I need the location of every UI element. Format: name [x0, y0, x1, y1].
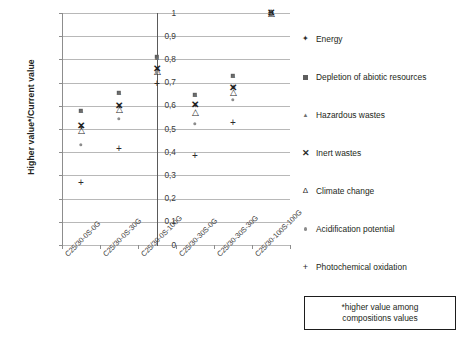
y-tick-mark	[59, 106, 63, 107]
legend-plus-marker-icon: +	[300, 263, 311, 272]
y-tick-label: 0,2	[116, 193, 176, 203]
y-tick-mark	[59, 152, 63, 153]
triangle-marker-icon: △	[192, 108, 199, 117]
legend-item-acidification-potential[interactable]: Acidification potential	[300, 222, 468, 236]
legend-item-label: Climate change	[316, 186, 374, 196]
gridline	[62, 13, 290, 14]
legend-item-label: Acidification potential	[316, 224, 395, 234]
circle-marker-icon	[193, 122, 196, 125]
gridline	[62, 129, 290, 130]
plus-marker-icon: +	[230, 118, 236, 128]
footnote-box: *higher value among compositions values	[304, 296, 456, 330]
y-tick-mark	[59, 175, 63, 176]
y-tick-label: 0,9	[116, 31, 176, 41]
plus-marker-icon: +	[268, 8, 274, 18]
legend-item-hazardous-wastes[interactable]: ▲Hazardous wastes	[300, 108, 468, 122]
legend-item-photochemical-oxidation[interactable]: +Photochemical oxidation	[300, 260, 468, 274]
legend-square-marker-icon	[300, 75, 311, 80]
x-tick-mark	[214, 245, 215, 249]
y-tick-mark	[59, 222, 63, 223]
legend-item-label: Hazardous wastes	[316, 110, 385, 120]
gridline	[62, 36, 290, 37]
legend-item-label: Inert wastes	[316, 148, 361, 158]
chart-canvas: Higher value*/Current value ✦✦✦✦✦✦▲▲▲▲▲▲…	[0, 0, 470, 342]
circle-marker-icon	[117, 117, 120, 120]
y-tick-label: 0,7	[116, 77, 176, 87]
legend-item-label: Energy	[316, 34, 343, 44]
triangle-small-marker-icon: ▲	[192, 91, 199, 98]
x-tick-mark	[100, 245, 101, 249]
y-tick-label: 0,5	[116, 124, 176, 134]
plot-area: ✦✦✦✦✦✦▲▲▲▲▲▲✕✕✕✕✕✕△△△△△△++++++	[62, 13, 290, 245]
footnote-line-2: compositions values	[342, 313, 417, 324]
y-tick-mark	[59, 199, 63, 200]
gridline	[62, 83, 290, 84]
gridline	[62, 199, 290, 200]
legend-circle-marker-icon	[300, 227, 311, 231]
x-tick-mark	[252, 245, 253, 249]
triangle-small-marker-icon: ▲	[116, 88, 123, 95]
x-tick-mark	[176, 245, 177, 249]
legend-item-depletion-of-abiotic-resources[interactable]: Depletion of abiotic resources	[300, 70, 468, 84]
circle-marker-icon	[231, 98, 234, 101]
legend-tri-marker-icon: Δ	[300, 187, 311, 195]
y-tick-mark	[59, 59, 63, 60]
legend-item-inert-wastes[interactable]: ✕Inert wastes	[300, 146, 468, 160]
y-axis-title: Higher value*/Current value	[26, 22, 36, 212]
triangle-marker-icon: △	[230, 88, 237, 97]
plus-marker-icon: +	[78, 178, 84, 188]
gridline	[62, 175, 290, 176]
legend-item-climate-change[interactable]: ΔClimate change	[300, 184, 468, 198]
y-tick-label: 1	[116, 8, 176, 18]
plus-marker-icon: +	[192, 151, 198, 161]
legend-item-label: Photochemical oxidation	[316, 262, 407, 272]
x-tick-mark	[62, 245, 63, 249]
y-tick-mark	[59, 129, 63, 130]
footnote-line-1: *higher value among	[342, 302, 419, 313]
y-tick-mark	[59, 13, 63, 14]
legend-item-energy[interactable]: ✦Energy	[300, 32, 468, 46]
circle-marker-icon	[79, 143, 82, 146]
legend-tri-small-marker-icon: ▲	[300, 112, 311, 118]
triangle-small-marker-icon: ▲	[78, 107, 85, 114]
legend-star-marker-icon: ✦	[300, 35, 311, 43]
y-tick-mark	[59, 36, 63, 37]
legend-item-label: Depletion of abiotic resources	[316, 72, 426, 82]
y-tick-label: 0,3	[116, 170, 176, 180]
x-tick-mark	[290, 245, 291, 249]
gridline	[62, 152, 290, 153]
y-tick-label: 0,6	[116, 100, 176, 110]
triangle-marker-icon: △	[78, 126, 85, 135]
legend-ex-marker-icon: ✕	[300, 149, 311, 158]
y-tick-label: 0,4	[116, 147, 176, 157]
gridline	[62, 59, 290, 60]
y-tick-mark	[59, 83, 63, 84]
triangle-small-marker-icon: ▲	[230, 71, 237, 78]
y-tick-label: 0,8	[116, 54, 176, 64]
gridline	[62, 106, 290, 107]
